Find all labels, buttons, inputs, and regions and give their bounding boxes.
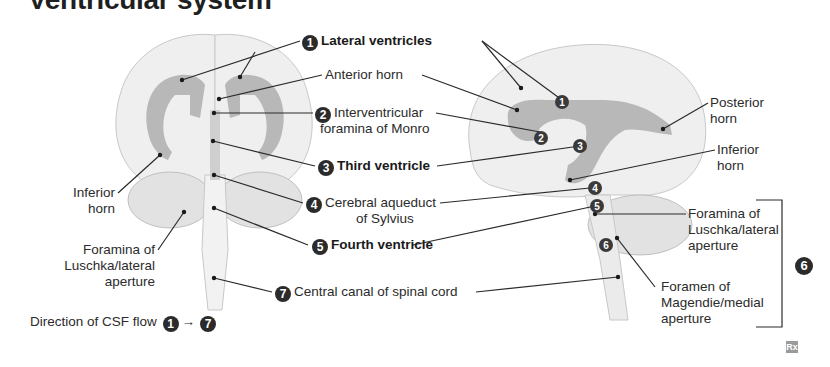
label-central-canal: 7Central canal of spinal cord: [275, 284, 458, 302]
svg-text:2: 2: [538, 133, 544, 144]
label-lateral-ventricles: 1Lateral ventricles: [302, 33, 432, 51]
label-inferior-horn-left: Inferior horn: [60, 185, 115, 217]
svg-text:1: 1: [559, 97, 565, 108]
label-foramina-luschka-right: Foramina of Luschka/lateral aperture: [688, 206, 779, 254]
label-cerebral-aqueduct-line2: of Sylvius: [356, 211, 414, 227]
label-anterior-horn: Anterior horn: [325, 67, 403, 83]
label-bracket-6: 6: [795, 256, 816, 275]
number-badge: 5: [312, 239, 328, 255]
label-fourth-ventricle: 5Fourth ventricle: [312, 237, 433, 255]
label-foramen-magendie: Foramen of Magendie/medial aperture: [661, 279, 764, 327]
number-badge: 7: [200, 316, 216, 332]
number-badge: 7: [275, 286, 291, 302]
rx-logo-icon: Rx: [786, 341, 798, 353]
svg-text:3: 3: [577, 141, 583, 152]
label-third-ventricle: 3Third ventricle: [318, 158, 430, 176]
number-badge: 6: [795, 257, 813, 275]
svg-text:6: 6: [603, 240, 609, 251]
svg-text:5: 5: [594, 201, 600, 212]
label-interventricular-line2: foramina of Monro: [320, 121, 430, 137]
number-badge: 4: [306, 197, 322, 213]
label-foramina-luschka-left: Foramina of Luschka/lateral aperture: [40, 242, 155, 290]
arrow-right-icon: →: [182, 314, 196, 329]
number-badge: 1: [302, 35, 318, 51]
label-posterior-horn: Posterior horn: [710, 95, 764, 127]
number-badge: 3: [318, 160, 334, 176]
number-badge: 1: [163, 316, 179, 332]
svg-text:4: 4: [592, 183, 598, 194]
label-inferior-horn-right: Inferior horn: [717, 142, 759, 174]
csf-flow-legend: Direction of CSF flow 1→7: [30, 314, 216, 332]
